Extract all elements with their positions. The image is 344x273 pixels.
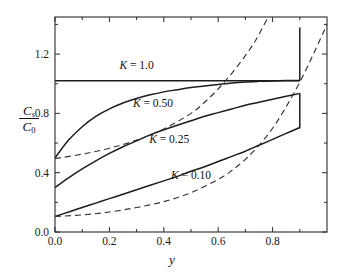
x-tick-label: 0.2 — [102, 235, 117, 247]
axes-frame — [55, 17, 327, 232]
curve-label-value: = 0.10 — [179, 169, 212, 181]
curve-label-0.50: K = 0.50 — [132, 97, 173, 109]
y-tick-label: 0.0 — [35, 226, 50, 238]
curve-label-1.0: K = 1.0 — [118, 59, 154, 71]
y-tick-label: 1.2 — [35, 48, 50, 60]
curve-label-value: = 0.50 — [141, 97, 174, 109]
axis-tick-labels: 0.00.20.40.60.80.00.40.81.2 — [35, 48, 280, 247]
y-tick-label: 0.4 — [35, 167, 50, 179]
x-tick-label: 0.0 — [48, 235, 63, 247]
curve-label-value: = 1.0 — [127, 59, 154, 71]
axis-ticks — [55, 17, 327, 232]
curve-label-0.10: K = 0.10 — [170, 169, 211, 181]
chart-plot-area: 0.00.20.40.60.80.00.40.81.2 K = 1.0K = 0… — [0, 0, 344, 273]
x-axis-title-text: y — [169, 252, 175, 267]
curve-k-0-50 — [55, 80, 300, 157]
curve-annotations: K = 1.0K = 0.50K = 0.25K = 0.10 — [118, 59, 211, 181]
curve-label-value: = 0.25 — [157, 133, 190, 145]
y-axis-title-denominator: C0 — [12, 119, 46, 133]
curves-clipped — [55, 14, 327, 216]
curve-label-0.25: K = 0.25 — [148, 133, 189, 145]
x-tick-label: 0.8 — [265, 235, 280, 247]
chart-figure: 0.00.20.40.60.80.00.40.81.2 K = 1.0K = 0… — [0, 0, 344, 273]
x-axis-title: y — [0, 250, 344, 268]
x-tick-label: 0.6 — [211, 235, 226, 247]
x-tick-label: 0.4 — [157, 235, 172, 247]
y-axis-title: Cs C0 — [12, 104, 46, 133]
data-curves — [55, 14, 327, 216]
y-axis-title-numerator: Cs — [12, 104, 46, 118]
